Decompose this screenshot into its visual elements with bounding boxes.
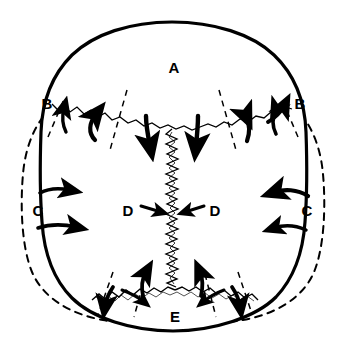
label-b-left: B — [42, 95, 53, 112]
label-d-right: D — [210, 202, 221, 219]
label-e-occipital: E — [170, 308, 180, 325]
label-d-left: D — [123, 202, 134, 219]
skull-diagram-canvas: A B B C C D D E — [0, 0, 344, 357]
label-c-right: C — [302, 202, 313, 219]
label-a-frontal: A — [169, 59, 180, 76]
label-b-right: B — [295, 95, 306, 112]
skull-diagram-figure: A B B C C D D E — [0, 0, 344, 357]
label-c-left: C — [33, 202, 44, 219]
